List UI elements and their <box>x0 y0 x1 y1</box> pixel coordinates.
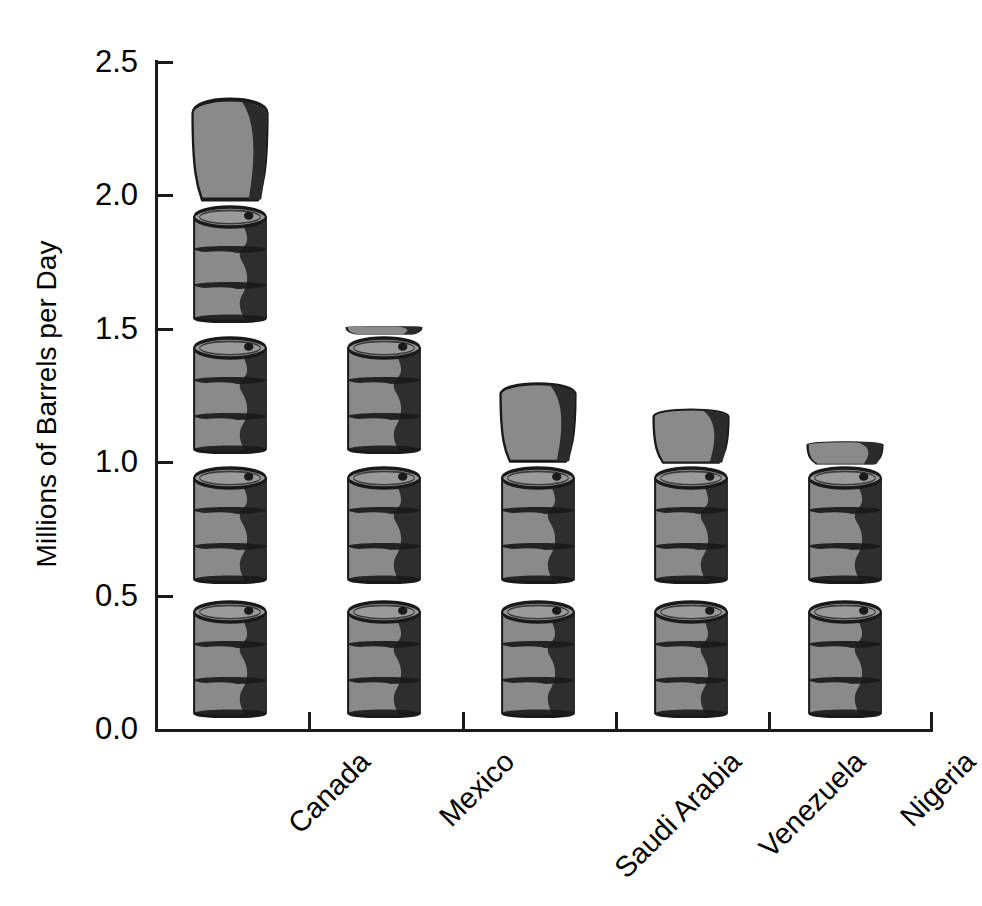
y-tick-mark <box>158 328 173 331</box>
x-axis-line <box>155 729 932 732</box>
barrel-glyph-partial <box>652 396 730 465</box>
barrel-glyph <box>191 462 269 595</box>
barrel-stack-inner <box>191 76 269 729</box>
barrel-glyph <box>806 462 884 595</box>
y-tick-label: 0.5 <box>8 580 138 611</box>
barrel-glyph <box>652 462 730 595</box>
barrel-glyph <box>345 332 423 465</box>
x-category-label: Saudi Arabia <box>608 745 748 885</box>
y-tick-label: 1.0 <box>8 446 138 477</box>
barrel-stack-inner <box>499 366 577 729</box>
barrel-glyph-partial <box>806 436 884 465</box>
barrel-glyph <box>499 462 577 595</box>
y-tick-mark <box>158 595 173 598</box>
barrel-stack-inner <box>652 398 730 729</box>
x-tick-mark <box>615 712 618 732</box>
y-tick-label: 2.0 <box>8 179 138 210</box>
barrel-stack[interactable] <box>499 361 577 729</box>
y-tick-mark <box>158 194 173 197</box>
y-tick-label: 1.5 <box>8 313 138 344</box>
y-axis-line <box>155 60 158 732</box>
x-category-label: Venezuela <box>753 745 872 864</box>
barrel-stack[interactable] <box>806 433 884 729</box>
barrel-glyph <box>191 596 269 729</box>
barrel-glyph <box>191 201 269 334</box>
x-tick-mark <box>308 712 311 732</box>
y-tick-mark <box>158 461 173 464</box>
x-tick-mark <box>462 712 465 732</box>
barrel-glyph-partial <box>191 74 269 205</box>
barrel-glyph <box>191 332 269 465</box>
x-category-label: Nigeria <box>894 745 982 833</box>
y-tick-label: 2.5 <box>8 46 138 77</box>
barrel-stack-inner <box>806 438 884 729</box>
barrel-stack[interactable] <box>191 65 269 729</box>
barrel-glyph <box>345 462 423 595</box>
barrel-stack-inner <box>345 326 423 729</box>
barrel-glyph <box>806 596 884 729</box>
x-category-label: Canada <box>282 745 377 840</box>
barrel-stack[interactable] <box>652 393 730 729</box>
x-category-label: Mexico <box>433 745 521 833</box>
y-tick-mark <box>158 61 173 64</box>
y-tick-label: 0.0 <box>8 713 138 744</box>
barrel-glyph-partial <box>499 364 577 465</box>
barrel-glyph <box>499 596 577 729</box>
barrel-glyph <box>652 596 730 729</box>
x-tick-mark <box>930 712 933 732</box>
barrel-glyph <box>345 596 423 729</box>
barrel-stack[interactable] <box>345 318 423 729</box>
x-tick-mark <box>768 712 771 732</box>
